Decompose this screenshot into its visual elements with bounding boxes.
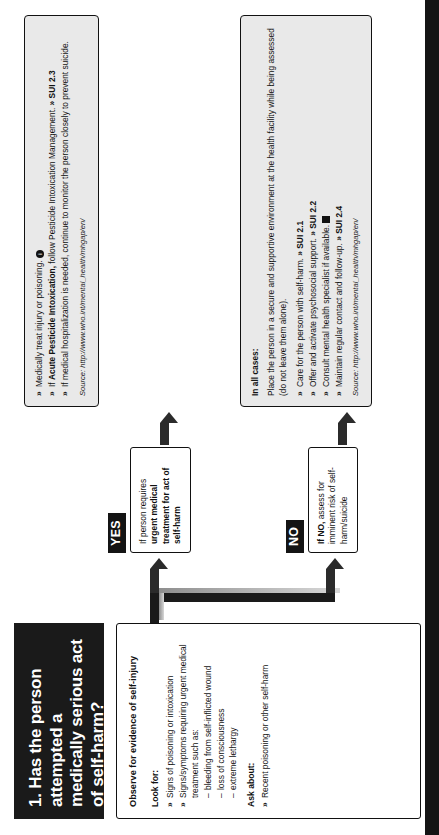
bullet-marker: » [164, 798, 176, 807]
list-item: » If medical hospitalization is needed, … [60, 26, 72, 396]
list-item: – bleeding from self-inflicted wound [202, 635, 214, 798]
list-item-label: bleeding from self-inflicted wound [202, 666, 214, 790]
dash-marker: – [227, 790, 239, 798]
decision-box-no: If NO, assess for imminent risk of self-… [308, 447, 358, 553]
decision-box-yes: If person requires urgent medical treatm… [130, 447, 191, 553]
flowchart-canvas: 1. Has the person attempted a medically … [0, 0, 439, 835]
list-item-label: Consult mental health specialist if avai… [321, 225, 331, 387]
bullet-marker: » [308, 387, 320, 396]
list-item: » Care for the person with self-harm. » … [295, 26, 307, 396]
arrow-head-yes-action [160, 412, 178, 423]
bullet-marker: » [60, 387, 72, 396]
bullet-marker: » [47, 387, 59, 396]
list-item-label: loss of consciousness [215, 709, 227, 790]
list-item: » Maintain regular contact and follow-up… [334, 26, 346, 396]
connector-shadow [159, 590, 164, 620]
list-item-label: extreme lethargy [227, 728, 239, 790]
list-item-label: Maintain regular contact and follow-up. [334, 243, 344, 387]
list-item: – extreme lethargy [227, 635, 239, 798]
connector-trunk-vertical [150, 593, 335, 602]
dash-marker: – [202, 790, 214, 798]
book-icon [322, 216, 330, 223]
ask-about-label: Ask about: [245, 635, 257, 807]
bullet-marker: » [177, 798, 201, 807]
bullet-marker: » [334, 387, 346, 396]
list-item: » Signs of poisoning or intoxication [164, 635, 176, 807]
action-box-urgent-medical: » Medically treat injury or poisoning. i… [24, 15, 99, 407]
list-item: – loss of consciousness [215, 635, 227, 798]
source-note[interactable]: Source: http://www.who.int/mental_health… [78, 26, 89, 396]
branch-chip-no: NO [286, 520, 304, 553]
list-item-label: Care for the person with self-harm. [295, 258, 305, 387]
list-item-emphasis: Acute Pesticide Intoxication, [47, 266, 57, 380]
info-icon: i [36, 250, 44, 258]
connector-no-action [338, 423, 347, 445]
cross-reference-link[interactable]: » SUI 2.4 [334, 206, 344, 241]
connector-yes-action [160, 423, 169, 445]
assessment-box: Observe for evidence of self-injury Look… [116, 623, 421, 819]
list-item-label: follow Pesticide Intoxication Management… [47, 108, 57, 266]
list-item: » Medically treat injury or poisoning. i [34, 26, 46, 396]
look-for-label: Look for: [149, 635, 161, 807]
connector-shadow [155, 588, 340, 593]
bullet-marker: » [295, 387, 307, 396]
arrow-head-no [326, 558, 344, 569]
dash-marker: – [215, 790, 227, 798]
list-item-label: Signs of poisoning or intoxication [164, 635, 176, 798]
list-item-label: Signs/symptoms requiring urgent medical … [177, 635, 201, 798]
assessment-heading: Observe for evidence of self-injury [127, 635, 140, 807]
arrow-head-yes [150, 558, 168, 569]
list-item: » Offer and activate psychosocial suppor… [308, 26, 320, 396]
connector-yes [150, 569, 159, 593]
list-item: » Recent poisoning or other self-harm [259, 635, 271, 807]
decision-lead-yes: If person requires [138, 479, 148, 544]
list-item: » Consult mental health specialist if av… [321, 26, 333, 396]
list-item-label: Recent poisoning or other self-harm [259, 635, 271, 798]
list-item-label: Medically treat injury or poisoning. [34, 260, 44, 387]
decision-lead-no: If NO, [316, 522, 326, 544]
bullet-marker: » [259, 798, 271, 807]
cross-reference-link[interactable]: » SUI 2.2 [308, 201, 318, 236]
list-item-label: Offer and activate psychosocial support. [308, 238, 318, 387]
list-item-label: If medical hospitalization is needed, co… [60, 26, 72, 387]
page-title: 1. Has the person attempted a medically … [14, 623, 104, 819]
source-note[interactable]: Source: http://www.who.int/mental_health… [351, 26, 362, 396]
list-item: » Signs/symptoms requiring urgent medica… [177, 635, 201, 807]
branch-chip-yes: YES [108, 513, 126, 553]
cross-reference-link[interactable]: » SUI 2.1 [295, 221, 305, 256]
cross-reference-link[interactable]: » SUI 2.3 [47, 70, 57, 105]
list-item: » If Acute Pesticide Intoxication, follo… [47, 26, 59, 396]
bullet-marker: » [321, 387, 333, 396]
all-cases-heading: In all cases: [250, 26, 262, 396]
page-edge-band [425, 0, 439, 835]
action-box-all-cases: In all cases: Place the person in a secu… [240, 15, 372, 407]
arrow-head-no-action [338, 412, 356, 423]
bullet-marker: » [34, 387, 46, 396]
connector-no [326, 569, 335, 593]
list-item-prefix: If [47, 380, 57, 387]
all-cases-intro: Place the person in a secure and support… [266, 26, 290, 396]
decision-text-yes: urgent medical treatment for act of self… [149, 468, 182, 544]
